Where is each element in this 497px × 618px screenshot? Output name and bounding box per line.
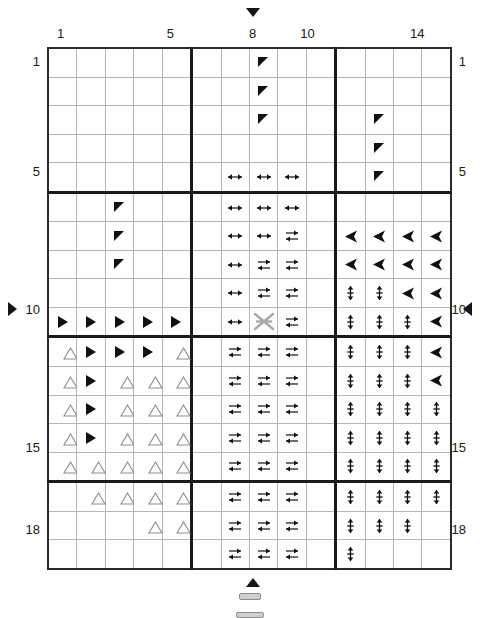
grid-cell-r16-c6[interactable] bbox=[192, 482, 221, 512]
grid-cell-r6-c10[interactable] bbox=[306, 192, 335, 222]
grid-cell-r5-c13[interactable] bbox=[394, 163, 422, 193]
grid-cell-r17-c10[interactable] bbox=[306, 511, 335, 540]
grid-cell-r13-c8[interactable] bbox=[249, 395, 277, 424]
grid-cell-r4-c7[interactable] bbox=[221, 134, 249, 163]
grid-cell-r5-c5[interactable] bbox=[162, 163, 191, 193]
grid-cell-r11-c14[interactable] bbox=[422, 337, 451, 367]
grid-cell-r1-c4[interactable] bbox=[134, 48, 162, 77]
grid-cell-r5-c7[interactable] bbox=[221, 163, 249, 193]
grid-cell-r15-c10[interactable] bbox=[306, 452, 335, 482]
grid-cell-r12-c10[interactable] bbox=[306, 367, 335, 396]
grid-cell-r1-c5[interactable] bbox=[162, 48, 191, 77]
grid-cell-r3-c5[interactable] bbox=[162, 106, 191, 135]
grid-cell-r18-c13[interactable] bbox=[394, 540, 422, 569]
grid-cell-r5-c3[interactable] bbox=[105, 163, 133, 193]
grid-cell-r16-c12[interactable] bbox=[365, 482, 393, 512]
grid-cell-r1-c8[interactable] bbox=[249, 48, 277, 77]
grid-cell-r12-c13[interactable] bbox=[394, 367, 422, 396]
grid-cell-r2-c4[interactable] bbox=[134, 77, 162, 106]
grid-cell-r14-c8[interactable] bbox=[249, 424, 277, 453]
grid-cell-r15-c4[interactable] bbox=[134, 452, 162, 482]
grid-cell-r4-c5[interactable] bbox=[162, 134, 191, 163]
grid-cell-r12-c12[interactable] bbox=[365, 367, 393, 396]
grid-cell-r15-c5[interactable] bbox=[162, 452, 191, 482]
grid-cell-r14-c13[interactable] bbox=[394, 424, 422, 453]
grid-cell-r2-c12[interactable] bbox=[365, 77, 393, 106]
grid-cell-r13-c2[interactable] bbox=[77, 395, 105, 424]
grid-cell-r12-c4[interactable] bbox=[134, 367, 162, 396]
grid-cell-r2-c9[interactable] bbox=[278, 77, 306, 106]
grid-container[interactable] bbox=[47, 47, 431, 543]
grid-cell-r9-c2[interactable] bbox=[77, 279, 105, 308]
grid-cell-r4-c1[interactable] bbox=[48, 134, 77, 163]
grid-cell-r14-c7[interactable] bbox=[221, 424, 249, 453]
grid-cell-r15-c14[interactable] bbox=[422, 452, 451, 482]
grid-cell-r12-c9[interactable] bbox=[278, 367, 306, 396]
grid-cell-r14-c10[interactable] bbox=[306, 424, 335, 453]
grid-cell-r12-c1[interactable] bbox=[48, 367, 77, 396]
grid-cell-r12-c11[interactable] bbox=[336, 367, 365, 396]
grid-cell-r6-c14[interactable] bbox=[422, 192, 451, 222]
grid-cell-r14-c9[interactable] bbox=[278, 424, 306, 453]
grid-cell-r8-c2[interactable] bbox=[77, 250, 105, 279]
grid-cell-r14-c1[interactable] bbox=[48, 424, 77, 453]
grid-cell-r17-c13[interactable] bbox=[394, 511, 422, 540]
grid-cell-r7-c12[interactable] bbox=[365, 222, 393, 251]
grid-cell-r3-c10[interactable] bbox=[306, 106, 335, 135]
grid-cell-r1-c13[interactable] bbox=[394, 48, 422, 77]
grid-cell-r16-c13[interactable] bbox=[394, 482, 422, 512]
grid-cell-r2-c2[interactable] bbox=[77, 77, 105, 106]
grid-cell-r2-c14[interactable] bbox=[422, 77, 451, 106]
grid-cell-r9-c11[interactable] bbox=[336, 279, 365, 308]
grid-cell-r12-c5[interactable] bbox=[162, 367, 191, 396]
grid-cell-r5-c4[interactable] bbox=[134, 163, 162, 193]
grid-cell-r18-c12[interactable] bbox=[365, 540, 393, 569]
grid-cell-r1-c1[interactable] bbox=[48, 48, 77, 77]
grid-cell-r7-c2[interactable] bbox=[77, 222, 105, 251]
grid-cell-r10-c4[interactable] bbox=[134, 307, 162, 337]
grid-cell-r13-c10[interactable] bbox=[306, 395, 335, 424]
grid-cell-r2-c5[interactable] bbox=[162, 77, 191, 106]
grid-cell-r15-c9[interactable] bbox=[278, 452, 306, 482]
grid-cell-r11-c6[interactable] bbox=[192, 337, 221, 367]
grid-cell-r15-c8[interactable] bbox=[249, 452, 277, 482]
grid-cell-r5-c10[interactable] bbox=[306, 163, 335, 193]
grid-cell-r9-c4[interactable] bbox=[134, 279, 162, 308]
grid-cell-r10-c14[interactable] bbox=[422, 307, 451, 337]
grid-cell-r3-c14[interactable] bbox=[422, 106, 451, 135]
grid-cell-r8-c14[interactable] bbox=[422, 250, 451, 279]
grid-cell-r7-c8[interactable] bbox=[249, 222, 277, 251]
grid-cell-r8-c13[interactable] bbox=[394, 250, 422, 279]
grid-cell-r12-c2[interactable] bbox=[77, 367, 105, 396]
grid-cell-r10-c6[interactable] bbox=[192, 307, 221, 337]
grid-cell-r13-c1[interactable] bbox=[48, 395, 77, 424]
grid-cell-r16-c2[interactable] bbox=[77, 482, 105, 512]
grid-cell-r10-c12[interactable] bbox=[365, 307, 393, 337]
grid-cell-r6-c13[interactable] bbox=[394, 192, 422, 222]
grid-cell-r14-c6[interactable] bbox=[192, 424, 221, 453]
grid-cell-r18-c7[interactable] bbox=[221, 540, 249, 569]
grid-cell-r2-c6[interactable] bbox=[192, 77, 221, 106]
grid-cell-r11-c12[interactable] bbox=[365, 337, 393, 367]
grid-cell-r4-c13[interactable] bbox=[394, 134, 422, 163]
grid-cell-r17-c2[interactable] bbox=[77, 511, 105, 540]
grid-cell-r2-c13[interactable] bbox=[394, 77, 422, 106]
grid-cell-r13-c9[interactable] bbox=[278, 395, 306, 424]
grid-cell-r13-c14[interactable] bbox=[422, 395, 451, 424]
grid-cell-r7-c7[interactable] bbox=[221, 222, 249, 251]
grid-cell-r17-c14[interactable] bbox=[422, 511, 451, 540]
grid-cell-r10-c7[interactable] bbox=[221, 307, 249, 337]
grid-cell-r17-c1[interactable] bbox=[48, 511, 77, 540]
grid-cell-r8-c9[interactable] bbox=[278, 250, 306, 279]
grid-cell-r2-c11[interactable] bbox=[336, 77, 365, 106]
grid-cell-r6-c4[interactable] bbox=[134, 192, 162, 222]
grid-cell-r2-c8[interactable] bbox=[249, 77, 277, 106]
grid-cell-r12-c14[interactable] bbox=[422, 367, 451, 396]
grid-cell-r15-c1[interactable] bbox=[48, 452, 77, 482]
grid-cell-r9-c8[interactable] bbox=[249, 279, 277, 308]
grid-cell-r3-c8[interactable] bbox=[249, 106, 277, 135]
grid-cell-r18-c14[interactable] bbox=[422, 540, 451, 569]
grid-cell-r3-c7[interactable] bbox=[221, 106, 249, 135]
grid-cell-r13-c7[interactable] bbox=[221, 395, 249, 424]
grid-cell-r1-c14[interactable] bbox=[422, 48, 451, 77]
